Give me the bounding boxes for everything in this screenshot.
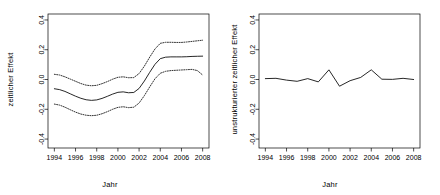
y-axis-title-right: unstrukturierter zeitlicher Effekt	[230, 10, 239, 150]
y-tick-label: 0.2	[249, 45, 256, 55]
x-tick-label: 2000	[110, 154, 126, 161]
plot-area-right: 19941996199820002002200420062008-0.4-0.2…	[220, 0, 440, 195]
y-tick-label: 0.2	[38, 45, 45, 55]
x-tick-label: 2004	[363, 154, 379, 161]
x-tick-label: 1998	[300, 154, 316, 161]
y-tick-label: 0.4	[38, 15, 45, 25]
y-tick-label: 0.0	[249, 75, 256, 85]
plot-area-left: 19941996199820002002200420062008-0.4-0.2…	[0, 0, 220, 195]
x-tick-label: 2006	[174, 154, 190, 161]
x-tick-label: 2002	[131, 154, 147, 161]
figure-two-panel-time-effects: 19941996199820002002200420062008-0.4-0.2…	[0, 0, 440, 195]
y-tick-label: 0.0	[38, 75, 45, 85]
x-tick-label: 1996	[68, 154, 84, 161]
x-tick-label: 2008	[406, 154, 422, 161]
series-mean	[54, 56, 202, 100]
x-tick-label: 1994	[47, 154, 63, 161]
x-tick-label: 2008	[195, 154, 211, 161]
y-tick-label: -0.4	[38, 133, 45, 145]
panel-zeitlicher-effekt: 19941996199820002002200420062008-0.4-0.2…	[0, 0, 220, 195]
series-unstructured	[265, 70, 413, 86]
x-tick-label: 2000	[321, 154, 337, 161]
y-axis-title-left: zeitlicher Effekt	[6, 10, 15, 150]
y-tick-label: 0.4	[249, 15, 256, 25]
x-tick-label: 2004	[152, 154, 168, 161]
x-tick-label: 1998	[89, 154, 105, 161]
panel-unstrukturierter-zeitlicher-effekt: 19941996199820002002200420062008-0.4-0.2…	[220, 0, 440, 195]
x-axis-title-right: Jahr	[220, 180, 440, 189]
x-tick-label: 1996	[279, 154, 295, 161]
x-tick-label: 2006	[385, 154, 401, 161]
x-axis-title-left: Jahr	[0, 180, 220, 189]
y-tick-label: -0.4	[249, 133, 256, 145]
x-tick-label: 1994	[258, 154, 274, 161]
series-upper	[54, 40, 202, 86]
y-tick-label: -0.2	[38, 103, 45, 115]
y-tick-label: -0.2	[249, 103, 256, 115]
x-tick-label: 2002	[342, 154, 358, 161]
